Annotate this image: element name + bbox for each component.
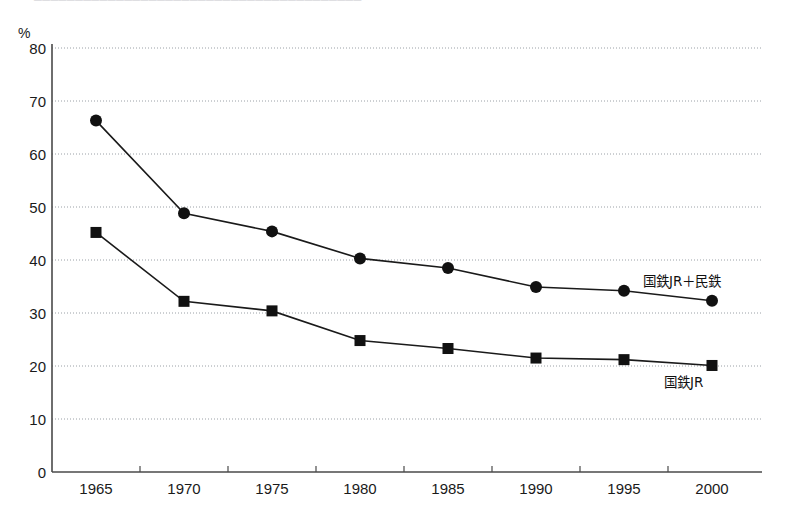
series-rail-total (90, 115, 718, 307)
data-point-marker (354, 252, 366, 264)
gridlines (52, 48, 762, 419)
data-point-marker (266, 225, 278, 237)
data-point-marker (355, 335, 366, 346)
plot-area (0, 0, 791, 523)
data-point-marker (90, 115, 102, 127)
series-jr (91, 227, 718, 371)
x-axis-ticks (140, 466, 668, 472)
data-point-marker (619, 354, 630, 365)
axis-lines (52, 44, 762, 472)
data-point-marker (531, 353, 542, 364)
data-point-marker (706, 295, 718, 307)
data-point-marker (179, 296, 190, 307)
data-point-marker (530, 281, 542, 293)
data-point-marker (707, 360, 718, 371)
data-point-marker (267, 305, 278, 316)
data-point-marker (443, 343, 454, 354)
rail-share-line-chart: ────────────────────────────────────────… (0, 0, 791, 523)
data-point-marker (91, 227, 102, 238)
data-point-marker (178, 207, 190, 219)
data-point-marker (618, 285, 630, 297)
data-point-marker (442, 262, 454, 274)
